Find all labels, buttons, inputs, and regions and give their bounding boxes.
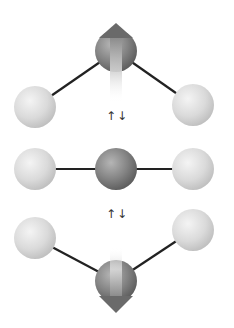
outer-atom-left [14, 217, 56, 259]
outer-atom-left [14, 148, 56, 190]
transition-label-2: ↑↓ [0, 207, 234, 221]
state-linear [14, 148, 214, 190]
outer-atom-right [172, 148, 214, 190]
transition-label-1: ↑↓ [0, 109, 234, 123]
central-atom [95, 148, 137, 190]
state-central-down [14, 209, 214, 313]
molecular-bending-diagram [0, 0, 234, 328]
